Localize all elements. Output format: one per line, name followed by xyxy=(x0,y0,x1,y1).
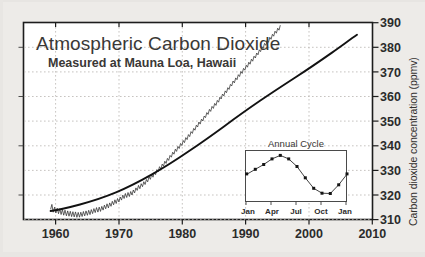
inset-point xyxy=(287,157,290,160)
chart-subtitle: Measured at Mauna Loa, Hawaii xyxy=(48,56,236,70)
inset-point xyxy=(337,183,340,186)
y-tick-label: 330 xyxy=(380,164,401,178)
inset-point xyxy=(329,192,332,195)
x-tick-label: 2010 xyxy=(358,227,386,241)
y-tick-labels: 310 320 330 340 350 360 370 380 390 xyxy=(380,16,401,227)
chart-title: Atmospheric Carbon Dioxide xyxy=(36,33,280,54)
inset-point xyxy=(304,176,307,179)
y-tick-label: 320 xyxy=(380,189,401,203)
inset-x-tick-label: Oct xyxy=(314,207,328,216)
inset-point xyxy=(346,172,349,175)
y-tick-label: 390 xyxy=(380,16,401,30)
inset-x-tick-label: Apr xyxy=(265,207,279,216)
inset-title: Annual Cycle xyxy=(268,138,324,149)
co2-chart: Atmospheric Carbon Dioxide Measured at M… xyxy=(0,0,425,257)
y-tick-label: 350 xyxy=(380,115,401,129)
inset-point xyxy=(312,187,315,190)
inset-point xyxy=(296,165,299,168)
y-tick-label: 380 xyxy=(380,41,401,55)
x-tick-label: 1960 xyxy=(42,227,70,241)
y-tick-label: 310 xyxy=(380,213,401,227)
y-tick-label: 370 xyxy=(380,66,401,80)
inset-point xyxy=(245,172,248,175)
x-tick-label: 1970 xyxy=(105,227,133,241)
inset-x-tick-label: Jul xyxy=(290,207,302,216)
y-tick-label: 360 xyxy=(380,90,401,104)
inset-point xyxy=(271,157,274,160)
x-tick-label: 2000 xyxy=(295,227,323,241)
inset-point xyxy=(321,192,324,195)
inset-x-tick-label: Jan xyxy=(241,207,255,216)
inset-x-tick-label: Jan xyxy=(338,207,352,216)
inset-point xyxy=(262,163,265,166)
x-tick-label: 1980 xyxy=(168,227,196,241)
y-tick-label: 340 xyxy=(380,139,401,153)
inset-point xyxy=(279,154,282,157)
inset-point xyxy=(254,168,257,171)
x-tick-label: 1990 xyxy=(232,227,260,241)
y-axis-title: Carbon dioxide concentration (ppmv) xyxy=(407,57,419,226)
figure-container: Atmospheric Carbon Dioxide Measured at M… xyxy=(0,0,425,257)
